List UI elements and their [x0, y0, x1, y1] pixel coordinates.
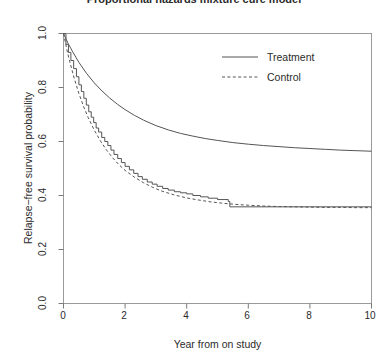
curve-control: [64, 34, 372, 208]
y-axis-ticks: [59, 34, 64, 304]
curve-kaplan-meier: [64, 34, 372, 207]
curve-treatment: [64, 34, 372, 152]
x-axis-ticks: [64, 304, 372, 309]
plot-area: [0, 0, 388, 364]
survival-chart-figure: Proportional hazards mixture cure model …: [0, 0, 388, 364]
plot-frame: [64, 34, 372, 304]
